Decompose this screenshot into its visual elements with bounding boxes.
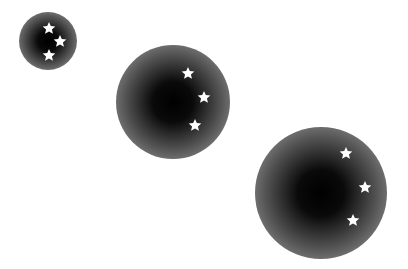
star-icon	[346, 213, 360, 227]
star-icon	[53, 34, 67, 48]
star-icon	[197, 90, 211, 104]
star-icon	[358, 180, 372, 194]
star-icon	[42, 48, 56, 62]
star-icon	[188, 118, 202, 132]
star-icon	[42, 21, 56, 35]
star-icon	[339, 146, 353, 160]
orb-2	[116, 45, 230, 159]
star-icon	[181, 66, 195, 80]
